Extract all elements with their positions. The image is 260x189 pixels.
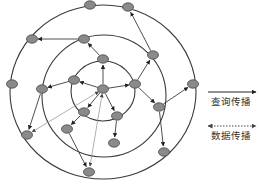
node-i3 — [130, 80, 141, 88]
node-o4 — [7, 80, 18, 88]
legend-data: 数据传播 — [202, 122, 260, 142]
legend-query-label: 查询传播 — [202, 96, 260, 108]
query-edge-c-i4 — [88, 93, 100, 108]
node-i1 — [98, 55, 109, 63]
node-m2 — [148, 51, 159, 59]
query-edge-m4-o5 — [163, 87, 188, 104]
query-edge-c-i3 — [108, 85, 129, 88]
query-edge-i1-m1 — [88, 43, 99, 55]
node-i4 — [79, 108, 90, 116]
query-edge-i5-m6 — [115, 121, 117, 137]
node-o8 — [84, 168, 95, 176]
query-edge-i2-m3 — [48, 81, 69, 87]
node-m6 — [109, 139, 120, 147]
node-i5 — [112, 112, 123, 120]
legend-data-label: 数据传播 — [202, 130, 260, 142]
dotted-double-arrow-icon — [202, 122, 260, 130]
query-edge-i4-m5 — [71, 116, 80, 125]
query-edge-c-i2 — [80, 82, 98, 88]
node-c — [98, 85, 109, 93]
node-m4 — [154, 103, 165, 111]
node-m3 — [37, 85, 48, 93]
node-i2 — [69, 76, 80, 84]
query-edge-m2-o2 — [131, 12, 151, 50]
node-o1 — [85, 1, 96, 9]
node-o5 — [188, 80, 199, 88]
node-o3 — [27, 35, 38, 43]
query-edge-m5-o8 — [69, 133, 86, 166]
node-m5 — [62, 125, 73, 133]
node-o7 — [159, 148, 170, 156]
query-edge-m3-o6 — [29, 94, 41, 130]
node-o2 — [123, 3, 134, 11]
nodes-group — [7, 1, 199, 176]
query-edge-c-i5 — [105, 93, 114, 110]
node-o6 — [22, 131, 33, 139]
solid-arrow-icon — [202, 88, 260, 96]
node-m1 — [79, 35, 90, 43]
data-edge-c-o8 — [90, 94, 102, 166]
legend-query: 查询传播 — [202, 88, 260, 108]
query-edge-i3-m2 — [138, 60, 150, 80]
query-edge-i3-m4 — [139, 87, 155, 102]
